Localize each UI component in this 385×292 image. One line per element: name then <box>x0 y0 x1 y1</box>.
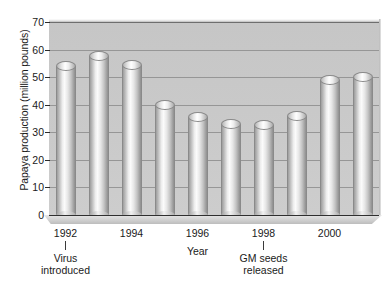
y-tick-mark-40 <box>45 105 50 106</box>
bar-1994 <box>122 60 142 215</box>
bar-2000 <box>320 75 340 215</box>
bar-1999 <box>287 111 307 215</box>
bar-1993 <box>89 51 109 215</box>
bar-top-ellipse <box>320 75 340 85</box>
annotation-leader-line <box>263 241 264 250</box>
y-tick-label-0: 0 <box>0 210 44 220</box>
bar-top-ellipse <box>287 111 307 121</box>
y-tick-mark-50 <box>45 77 50 78</box>
annotation-1998: GM seedsreleased <box>209 240 319 276</box>
y-tick-mark-30 <box>45 132 50 133</box>
bar-1996 <box>188 112 208 215</box>
y-tick-label-20: 20 <box>0 155 44 165</box>
bar-body <box>353 77 373 215</box>
x-axis-line <box>49 215 379 216</box>
bar-body <box>320 80 340 215</box>
x-tick-label-1996: 1996 <box>168 227 228 239</box>
y-tick-mark-20 <box>45 160 50 161</box>
bar-body <box>188 117 208 215</box>
bar-top-ellipse <box>155 100 175 110</box>
y-axis-title: Papaya production (million pounds) <box>18 10 30 210</box>
annotation-line-1: Virus <box>54 252 78 264</box>
bar-body <box>287 116 307 215</box>
annotation-leader-line <box>65 241 66 250</box>
y-tick-label-10: 10 <box>0 182 44 192</box>
bar-body <box>56 66 76 215</box>
y-tick-label-40: 40 <box>0 100 44 110</box>
x-tick-label-1992: 1992 <box>36 227 96 239</box>
annotation-line-2: introduced <box>41 264 90 276</box>
bar-top-ellipse <box>122 60 142 70</box>
chart-figure: Papaya production (million pounds) 01020… <box>0 0 385 292</box>
plot-right-bevel <box>379 19 381 215</box>
bar-1998 <box>254 120 274 215</box>
bar-top-ellipse <box>353 72 373 82</box>
bar-body <box>221 124 241 215</box>
bar-2001 <box>353 72 373 215</box>
y-tick-label-30: 30 <box>0 127 44 137</box>
y-tick-label-70: 70 <box>0 17 44 27</box>
bar-1992 <box>56 61 76 215</box>
annotation-line-1: GM seeds <box>240 252 288 264</box>
x-tick-label-1994: 1994 <box>102 227 162 239</box>
bar-top-ellipse <box>188 112 208 122</box>
annotation-1992: Virusintroduced <box>11 240 121 276</box>
annotation-line-2: released <box>243 264 283 276</box>
bar-series <box>49 22 379 215</box>
x-tick-label-2000: 2000 <box>300 227 360 239</box>
bar-body <box>254 125 274 215</box>
x-tick-label-1998: 1998 <box>234 227 294 239</box>
bar-1995 <box>155 100 175 215</box>
y-tick-mark-60 <box>45 50 50 51</box>
bar-body <box>89 56 109 215</box>
bar-top-ellipse <box>221 119 241 129</box>
bar-body <box>155 105 175 215</box>
y-tick-mark-10 <box>45 187 50 188</box>
plot-area <box>49 22 379 215</box>
y-tick-mark-70 <box>45 22 50 23</box>
y-tick-label-50: 50 <box>0 72 44 82</box>
y-tick-label-60: 60 <box>0 45 44 55</box>
bar-top-ellipse <box>56 61 76 71</box>
bar-body <box>122 65 142 215</box>
bar-1997 <box>221 119 241 215</box>
axis-baseline-platform <box>44 215 382 224</box>
